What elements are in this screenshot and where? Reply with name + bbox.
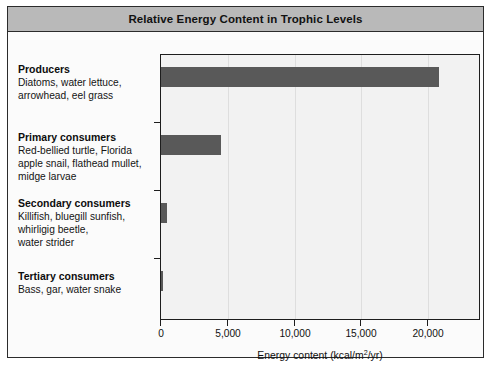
bar-producers [161, 67, 439, 87]
category-description-line: Killifish, bluegill sunfish, [18, 210, 163, 223]
category-label-producers: Producers Diatoms, water lettuce, arrowh… [18, 63, 163, 102]
x-axis-tick [227, 320, 228, 326]
x-axis-tick-label: 5,000 [215, 328, 241, 339]
plot-area [160, 54, 480, 320]
category-title: Primary consumers [18, 131, 163, 144]
x-axis-tick-label: 0 [158, 328, 164, 339]
category-label-primary-consumers: Primary consumers Red-bellied turtle, Fl… [18, 131, 163, 184]
category-title: Producers [18, 63, 163, 76]
x-axis-title-suffix: /yr) [368, 350, 383, 361]
x-axis-tick-label: 15,000 [345, 328, 376, 339]
bar-primary-consumers [161, 135, 221, 155]
x-axis-tick [160, 320, 161, 326]
category-description-line: whirligig beetle, [18, 223, 163, 236]
x-axis-tick [294, 320, 295, 326]
x-axis-tick [360, 320, 361, 326]
category-description-line: Bass, gar, water snake [18, 283, 163, 296]
figure-frame: Relative Energy Content in Trophic Level… [7, 6, 484, 358]
category-description-line: midge larvae [18, 170, 163, 183]
x-axis-tick [427, 320, 428, 326]
bar-tertiary-consumers [161, 271, 163, 291]
x-axis-title-prefix: Energy content (kcal/m [257, 350, 363, 361]
category-label-column: Producers Diatoms, water lettuce, arrowh… [8, 33, 160, 357]
bar-secondary-consumers [161, 203, 167, 223]
x-axis-tick-label: 10,000 [279, 328, 310, 339]
page-title: Relative Energy Content in Trophic Level… [128, 13, 362, 25]
category-title: Tertiary consumers [18, 270, 163, 283]
category-label-secondary-consumers: Secondary consumers Killifish, bluegill … [18, 197, 163, 250]
category-description-line: Diatoms, water lettuce, [18, 76, 163, 89]
chart-body: Producers Diatoms, water lettuce, arrowh… [8, 33, 483, 357]
category-description-line: water strider [18, 236, 163, 249]
category-description-line: Red-bellied turtle, Florida [18, 144, 163, 157]
chart-title-bar: Relative Energy Content in Trophic Level… [8, 7, 483, 32]
x-axis-title: Energy content (kcal/m2/yr) [160, 350, 480, 361]
bars-layer [161, 55, 479, 319]
x-axis-tick-label: 20,000 [412, 328, 443, 339]
category-label-tertiary-consumers: Tertiary consumers Bass, gar, water snak… [18, 270, 163, 296]
category-title: Secondary consumers [18, 197, 163, 210]
category-description-line: arrowhead, eel grass [18, 89, 163, 102]
category-description-line: apple snail, flathead mullet, [18, 157, 163, 170]
